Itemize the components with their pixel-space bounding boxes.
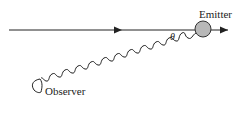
direction-arrow-mid-icon — [114, 27, 122, 34]
emitter-label: Emitter — [199, 8, 232, 20]
observer-label: Observer — [45, 85, 85, 97]
direction-arrow-end-icon — [220, 27, 228, 34]
diagram-canvas — [0, 0, 243, 139]
observer-eye-icon — [32, 79, 42, 93]
emitter-circle — [195, 21, 211, 37]
angle-theta-label: θ — [170, 31, 175, 42]
